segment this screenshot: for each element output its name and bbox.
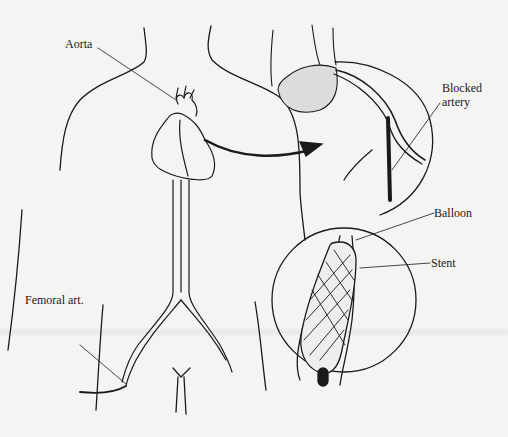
label-blocked-artery-1: Blocked (442, 82, 482, 95)
heart (152, 86, 215, 180)
stent-inset (272, 228, 416, 386)
arrow (205, 140, 322, 156)
label-blocked-artery-2: artery (442, 96, 470, 109)
lung-detail (271, 25, 337, 112)
label-stent: Stent (431, 257, 456, 270)
label-aorta: Aorta (65, 38, 92, 51)
angioplasty-diagram: Aorta Blocked artery Balloon Stent Femor… (0, 0, 508, 437)
label-balloon: Balloon (434, 207, 472, 220)
body-outline (8, 26, 305, 414)
illustration (0, 0, 508, 437)
aorta-descending (80, 180, 232, 393)
blocked-artery-inset (334, 62, 433, 215)
label-femoral-artery: Femoral art. (25, 294, 84, 307)
